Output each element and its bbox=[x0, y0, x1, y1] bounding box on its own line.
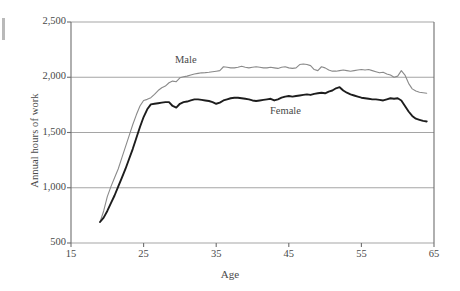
chart-root: Annual hours of work 5001,0001,5002,0002… bbox=[0, 0, 460, 291]
x-tick-label: 55 bbox=[341, 248, 381, 259]
x-tick-label: 25 bbox=[124, 248, 164, 259]
y-tick-label: 1,500 bbox=[22, 127, 66, 138]
x-tick-label: 65 bbox=[414, 248, 454, 259]
x-tick-label: 45 bbox=[269, 248, 309, 259]
x-tick-label: 35 bbox=[196, 248, 236, 259]
series-label-female: Female bbox=[270, 105, 301, 116]
y-tick-label: 500 bbox=[22, 237, 66, 248]
series-line-male bbox=[100, 64, 427, 222]
x-axis-title: Age bbox=[0, 268, 460, 280]
series-line-female bbox=[100, 87, 427, 222]
y-tick-label: 2,000 bbox=[22, 71, 66, 82]
y-tick-label: 1,000 bbox=[22, 182, 66, 193]
y-tick-label: 2,500 bbox=[22, 16, 66, 27]
x-tick-label: 15 bbox=[51, 248, 91, 259]
series-label-male: Male bbox=[175, 54, 197, 65]
page-edge-artifact bbox=[2, 18, 5, 40]
